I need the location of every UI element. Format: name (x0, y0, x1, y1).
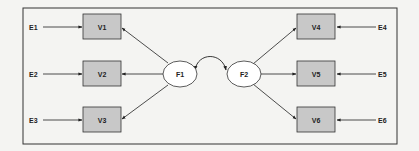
latent-f2: F2 (227, 61, 261, 87)
observed-v4: V4 (297, 14, 335, 39)
v4-label: V4 (312, 24, 321, 31)
arrow-f1-v1 (122, 28, 168, 63)
e1-label: E1 (29, 24, 38, 31)
observed-v6: V6 (297, 107, 335, 132)
error-arrows-right (337, 27, 376, 120)
error-arrows-left (43, 27, 82, 120)
v2-label: V2 (98, 71, 107, 78)
latent-f1: F1 (163, 61, 197, 87)
observed-v2: V2 (83, 61, 121, 86)
e2-label: E2 (29, 71, 38, 78)
e5-label: E5 (378, 71, 387, 78)
e6-label: E6 (378, 117, 387, 124)
loading-arrows (122, 28, 296, 119)
arrow-f2-v6 (253, 84, 296, 119)
arrow-f1-v3 (122, 85, 168, 119)
arrow-f2-v4 (253, 28, 296, 64)
sem-diagram: V1 V2 V3 V4 V5 V6 F1 F2 E1 E2 E3 E4 E5 E… (0, 0, 419, 151)
v3-label: V3 (98, 117, 107, 124)
observed-v1: V1 (83, 14, 121, 39)
diagram-frame (23, 8, 397, 144)
observed-v5: V5 (297, 61, 335, 86)
e3-label: E3 (29, 117, 38, 124)
f2-label: F2 (240, 71, 248, 78)
observed-v3: V3 (83, 107, 121, 132)
v1-label: V1 (98, 24, 107, 31)
covariance-f1-f2 (195, 57, 226, 71)
e4-label: E4 (378, 24, 387, 31)
v5-label: V5 (312, 71, 321, 78)
f1-label: F1 (176, 71, 184, 78)
v6-label: V6 (312, 117, 321, 124)
